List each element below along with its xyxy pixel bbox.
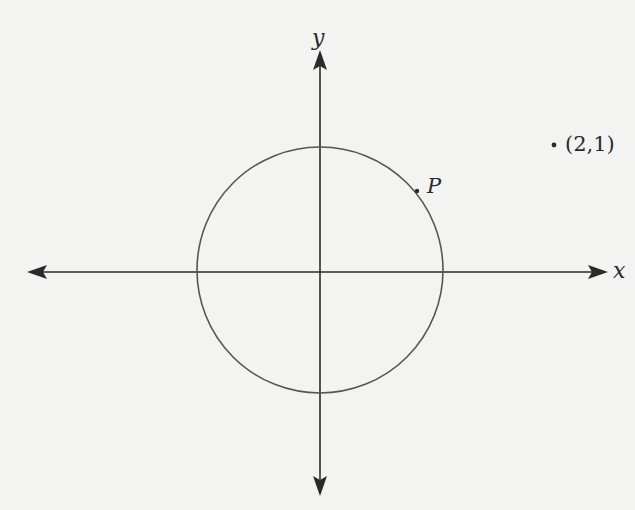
point-2-1-marker xyxy=(552,143,557,148)
point-2-1-label: (2,1) xyxy=(565,132,615,156)
diagram-canvas: y x P (2,1) xyxy=(0,0,635,510)
x-axis xyxy=(27,265,608,279)
y-axis-label: y xyxy=(311,25,325,50)
x-axis-label: x xyxy=(613,258,626,283)
point-p-label: P xyxy=(426,174,442,198)
point-p-marker xyxy=(415,189,419,193)
y-axis xyxy=(313,50,327,496)
